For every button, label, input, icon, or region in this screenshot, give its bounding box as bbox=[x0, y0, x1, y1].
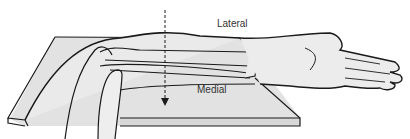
medial-label: Medial bbox=[197, 84, 226, 95]
hand bbox=[240, 33, 402, 90]
forearm-illustration bbox=[0, 0, 410, 139]
lateral-label: Lateral bbox=[217, 18, 248, 29]
forearm-diagram: Lateral Medial bbox=[0, 0, 410, 139]
